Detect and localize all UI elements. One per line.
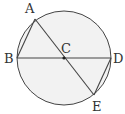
- label-d: D: [113, 51, 123, 66]
- label-c: C: [61, 41, 71, 56]
- circle-diagram: A B C D E: [0, 0, 125, 114]
- label-e: E: [92, 99, 102, 114]
- label-b: B: [4, 51, 14, 66]
- center-point: [62, 56, 65, 59]
- label-a: A: [24, 1, 35, 16]
